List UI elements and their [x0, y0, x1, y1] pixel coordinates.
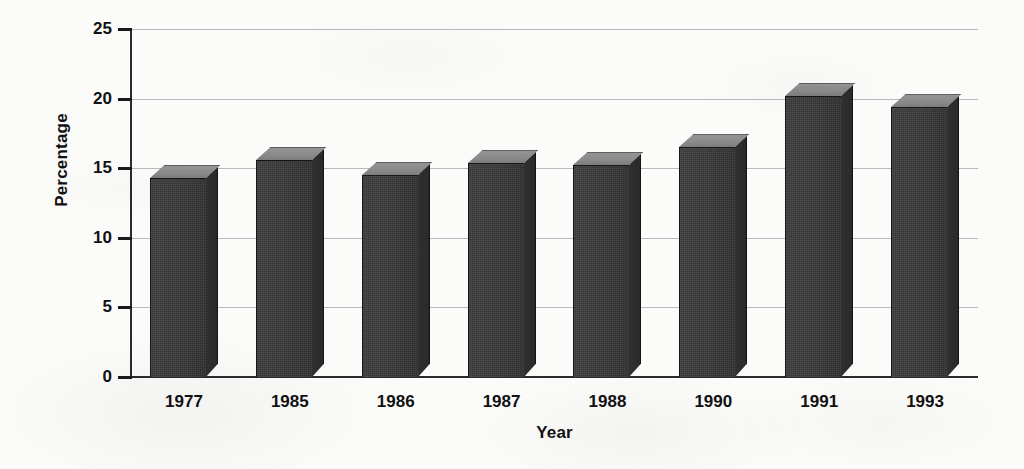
y-tick-label-0: 0 — [103, 367, 112, 387]
bar-1990 — [679, 147, 735, 377]
bar-side-face — [735, 134, 747, 377]
y-axis-tick-0 — [118, 376, 132, 379]
y-axis-tick-25 — [118, 28, 132, 31]
y-tick-label-25: 25 — [93, 19, 112, 39]
bar-1991 — [785, 96, 841, 377]
y-axis-line — [130, 29, 132, 377]
x-tick-label-1991: 1991 — [800, 392, 838, 412]
bar-side-face — [629, 152, 641, 377]
bar-front-face — [785, 96, 841, 377]
x-tick-label-1986: 1986 — [377, 392, 415, 412]
y-tick-label-15: 15 — [93, 158, 112, 178]
bar-front-face — [256, 160, 312, 377]
y-axis-tick-20 — [118, 98, 132, 101]
bar-1977 — [150, 178, 206, 377]
bar-front-face — [573, 165, 629, 377]
bar-front-face — [150, 178, 206, 377]
y-axis-title: Percentage — [52, 80, 72, 240]
y-axis-tick-15 — [118, 167, 132, 170]
bar-front-face — [468, 163, 524, 377]
bar-side-face — [312, 147, 324, 377]
bar-side-face — [524, 149, 536, 377]
bar-front-face — [679, 147, 735, 377]
y-axis-tick-5 — [118, 306, 132, 309]
x-tick-label-1990: 1990 — [694, 392, 732, 412]
bar-chart-figure: Percentage 0510152025 197719851986198719… — [0, 0, 1024, 469]
x-axis-title: Year — [131, 423, 978, 443]
x-tick-label-1993: 1993 — [906, 392, 944, 412]
bar-side-face — [418, 162, 430, 377]
bar-1987 — [468, 163, 524, 377]
gridline-25 — [131, 29, 978, 30]
y-tick-label-5: 5 — [103, 297, 112, 317]
x-tick-label-1977: 1977 — [165, 392, 203, 412]
bar-side-face — [841, 83, 853, 377]
y-tick-label-10: 10 — [93, 228, 112, 248]
x-tick-label-1985: 1985 — [271, 392, 309, 412]
x-tick-label-1987: 1987 — [483, 392, 521, 412]
plot-area: 0510152025 — [131, 29, 978, 377]
x-tick-label-1988: 1988 — [589, 392, 627, 412]
bar-front-face — [891, 107, 947, 377]
bar-front-face — [362, 175, 418, 377]
bar-1986 — [362, 175, 418, 377]
y-tick-label-20: 20 — [93, 89, 112, 109]
y-axis-tick-10 — [118, 237, 132, 240]
bar-1993 — [891, 107, 947, 377]
bar-1988 — [573, 165, 629, 377]
bar-1985 — [256, 160, 312, 377]
bar-side-face — [947, 94, 959, 377]
bar-side-face — [206, 165, 218, 377]
